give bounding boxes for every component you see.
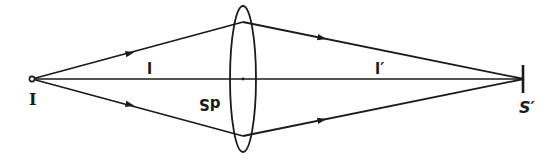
- image-point-label: S′: [519, 100, 535, 116]
- upper-incident-ray: [32, 22, 243, 79]
- diagram-canvas: [0, 0, 551, 167]
- source-point: [29, 76, 34, 81]
- lens-area-element-label: dS: [199, 96, 221, 111]
- image-distance-label: l′: [375, 62, 384, 77]
- object-distance-label: l: [147, 62, 152, 77]
- lower-refracted-ray: [243, 79, 524, 136]
- lens-center-dot: [242, 78, 245, 81]
- optics-diagram: I l l′ dS S′: [0, 0, 551, 167]
- source-label: I: [29, 92, 36, 108]
